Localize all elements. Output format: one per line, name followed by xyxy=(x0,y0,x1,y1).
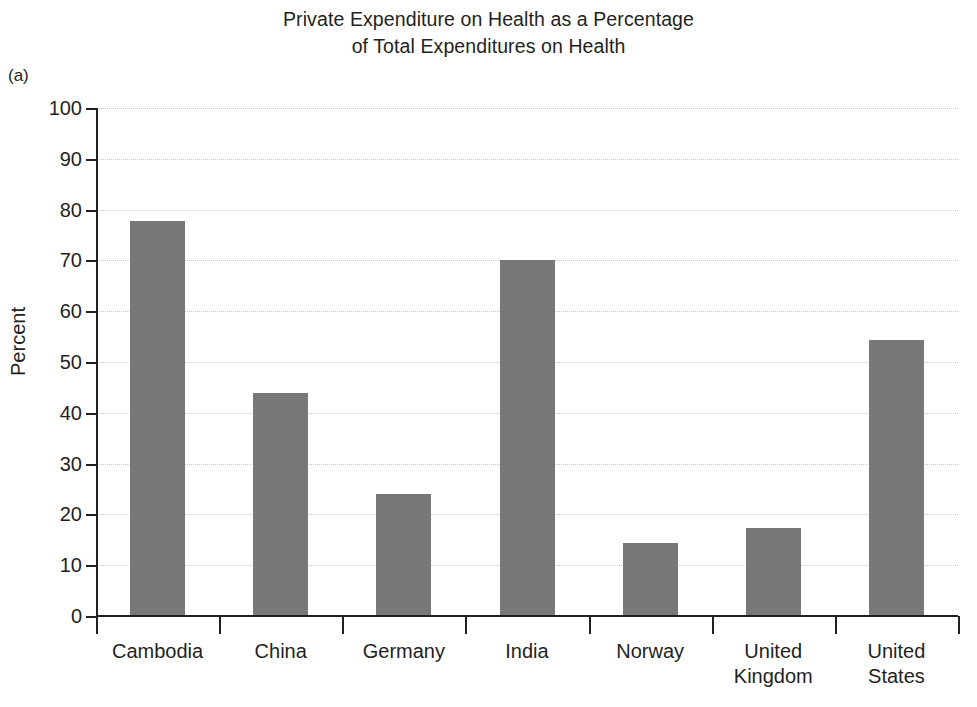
gridline xyxy=(97,108,958,109)
x-axis-category-label-line: Norway xyxy=(589,639,712,664)
bar[interactable] xyxy=(746,528,801,616)
x-axis-tick xyxy=(712,616,714,634)
x-axis-category-label-line: Cambodia xyxy=(96,639,219,664)
x-axis-category-label-line: Kingdom xyxy=(712,664,835,689)
x-axis-category-label-line: India xyxy=(465,639,588,664)
x-axis-category-label-line: United xyxy=(835,639,958,664)
y-axis-tick-label: 100 xyxy=(22,98,82,118)
x-axis-tick xyxy=(465,616,467,634)
y-axis-tick-label: 70 xyxy=(22,250,82,270)
x-axis-category-label: Cambodia xyxy=(96,639,219,664)
gridline xyxy=(97,210,958,211)
x-axis-category-label-line: States xyxy=(835,664,958,689)
y-axis-title: Percent xyxy=(7,282,30,402)
x-axis-tick xyxy=(342,616,344,634)
bar[interactable] xyxy=(500,260,555,616)
x-axis-category-label-line: United xyxy=(712,639,835,664)
y-axis-tick-label: 60 xyxy=(22,301,82,321)
bar[interactable] xyxy=(376,494,431,616)
x-axis-line xyxy=(96,615,958,617)
x-axis-category-label: UnitedKingdom xyxy=(712,639,835,689)
bar-chart-plot: 0102030405060708090100 CambodiaChinaGerm… xyxy=(0,0,977,707)
y-axis-tick-label: 30 xyxy=(22,454,82,474)
bar[interactable] xyxy=(869,340,924,616)
gridline xyxy=(97,159,958,160)
y-axis-tick-label: 10 xyxy=(22,555,82,575)
x-axis-tick xyxy=(835,616,837,634)
x-axis-category-label: Norway xyxy=(589,639,712,664)
bar[interactable] xyxy=(253,393,308,616)
x-axis-tick xyxy=(958,616,960,634)
y-axis-tick-label: 40 xyxy=(22,403,82,423)
bar[interactable] xyxy=(130,221,185,616)
x-axis-category-label: Germany xyxy=(342,639,465,664)
x-axis-tick xyxy=(96,616,98,634)
y-axis-tick-label: 20 xyxy=(22,504,82,524)
x-axis-category-label: India xyxy=(465,639,588,664)
x-axis-tick xyxy=(219,616,221,634)
x-axis-category-label: China xyxy=(219,639,342,664)
x-axis-category-label-line: Germany xyxy=(342,639,465,664)
y-axis-tick-label: 90 xyxy=(22,149,82,169)
x-axis-category-label-line: China xyxy=(219,639,342,664)
y-axis-tick-label: 0 xyxy=(22,606,82,626)
x-axis-category-label: UnitedStates xyxy=(835,639,958,689)
y-axis-tick-label: 50 xyxy=(22,352,82,372)
x-axis-tick xyxy=(589,616,591,634)
y-axis-line xyxy=(96,108,98,617)
bar[interactable] xyxy=(623,543,678,616)
y-axis-tick-label: 80 xyxy=(22,200,82,220)
